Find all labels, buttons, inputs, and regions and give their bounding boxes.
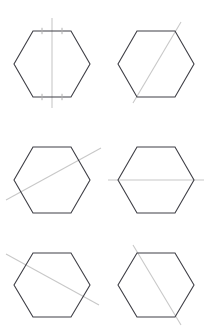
hexagon-panel-2	[104, 0, 208, 110]
hexagon-outline	[14, 253, 90, 317]
hexagon-panel-5	[0, 220, 104, 327]
crossing-line-long-diagonal-vertex-to-vertex	[133, 22, 181, 103]
crossing-line-oblique-chord-shallow-down-right	[6, 254, 99, 305]
crossing-line-long-diagonal-vertex-to-vertex-steep	[133, 245, 181, 325]
hexagon-outline	[118, 253, 194, 317]
hexagon-panel-1	[0, 0, 104, 110]
hexagon-outline	[14, 147, 90, 213]
hexagon-panel-3	[0, 110, 104, 220]
hexagon-panel-4	[104, 110, 208, 220]
hexagon-figure-grid	[0, 0, 208, 327]
hexagon-panel-6	[104, 220, 208, 327]
